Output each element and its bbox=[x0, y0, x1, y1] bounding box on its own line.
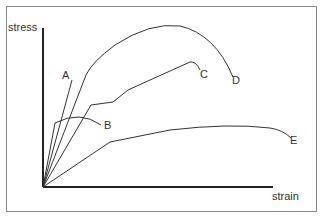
curve-b-label: B bbox=[104, 120, 111, 131]
y-axis-label: stress bbox=[8, 22, 37, 33]
curve-e bbox=[43, 126, 291, 187]
curve-a-label: A bbox=[62, 70, 69, 81]
curve-b bbox=[43, 117, 101, 187]
x-axis-label: strain bbox=[272, 191, 299, 202]
stress-strain-plot bbox=[0, 0, 325, 216]
curve-c-label: C bbox=[200, 69, 208, 80]
curve-d bbox=[43, 25, 233, 187]
curve-e-label: E bbox=[290, 135, 297, 146]
curve-d-label: D bbox=[232, 75, 240, 86]
